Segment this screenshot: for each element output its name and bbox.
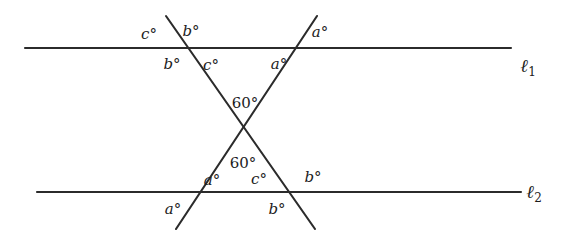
angle-label-ul-above-right: b° bbox=[182, 24, 199, 39]
angle-label-lr-above-left: c° bbox=[251, 172, 267, 187]
line-label-l2-glyph: ℓ bbox=[526, 181, 534, 202]
angle-label-ur-above-right: a° bbox=[312, 25, 328, 40]
angle-label-center-lower: 60° bbox=[230, 156, 257, 171]
angle-label-lr-below-left: b° bbox=[268, 202, 285, 217]
angle-label-ll-below-left: a° bbox=[165, 202, 181, 217]
line-label-l1-glyph: ℓ bbox=[520, 55, 528, 76]
angle-label-ur-below-left: a° bbox=[271, 57, 287, 72]
line-label-l1-subscript: 1 bbox=[528, 64, 536, 78]
line-label-l2-subscript: 2 bbox=[534, 190, 542, 204]
angle-label-ul-below-right: c° bbox=[203, 58, 219, 73]
line-label-l2: ℓ2 bbox=[526, 183, 542, 204]
geometry-figure: c°b°b°c°a°a°60°60°a°a°c°b°b° ℓ1 ℓ2 bbox=[0, 0, 567, 242]
angle-label-ul-above-left: c° bbox=[141, 27, 157, 42]
angle-label-ll-above-right: a° bbox=[204, 173, 220, 188]
angle-label-ul-below-left: b° bbox=[163, 57, 180, 72]
angle-label-lr-above-right: b° bbox=[304, 170, 321, 185]
line-label-l1: ℓ1 bbox=[520, 57, 536, 78]
angle-label-center-upper: 60° bbox=[232, 96, 259, 111]
